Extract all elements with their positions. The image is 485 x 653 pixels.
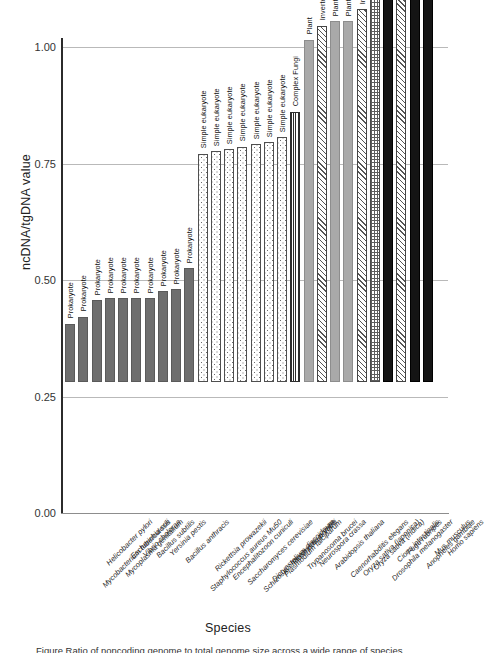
- bar-group-label: Prokaryote: [159, 250, 166, 286]
- bar-group-label: Simple eukaryote: [199, 91, 206, 149]
- bar-group-label: Prokaryote: [80, 275, 87, 311]
- bar[interactable]: Simple eukaryote: [277, 137, 287, 382]
- figure-caption: Figure Ratio of noncoding genome to tota…: [36, 645, 440, 653]
- bar[interactable]: Vertebrate: [423, 0, 433, 382]
- bar[interactable]: Prokaryote: [92, 300, 102, 382]
- bar[interactable]: Invertebrate: [317, 26, 327, 382]
- bar[interactable]: Urochordate: [370, 0, 380, 382]
- bar[interactable]: Prokaryote: [131, 298, 141, 382]
- bar[interactable]: Plant: [343, 21, 353, 382]
- bar[interactable]: Prokaryote: [118, 298, 128, 382]
- bar[interactable]: Simple eukaryote: [211, 151, 221, 382]
- bar[interactable]: Prokaryote: [105, 298, 115, 382]
- bar[interactable]: Vertebrate: [410, 0, 420, 382]
- x-axis-title: Species: [0, 621, 456, 635]
- bar-group-label: Prokaryote: [146, 257, 153, 293]
- plot-area: ProkaryoteProkaryoteProkaryoteProkaryote…: [0, 0, 456, 520]
- bar-group-label: Simple eukaryote: [252, 81, 259, 139]
- bar[interactable]: Simple eukaryote: [198, 154, 208, 382]
- bar-group-label: Prokaryote: [133, 257, 140, 293]
- bar-group-label: Simple eukaryote: [239, 84, 246, 142]
- bar-group-label: Simple eukaryote: [265, 79, 272, 137]
- bar-group-label: Invertebrate: [318, 0, 325, 21]
- bar[interactable]: Prokaryote: [65, 324, 75, 382]
- bar[interactable]: Prokaryote: [184, 268, 194, 382]
- bar-group-label: Prokaryote: [93, 259, 100, 295]
- bar-group-label: Simple eukaryote: [226, 86, 233, 144]
- bar[interactable]: Simple eukaryote: [264, 142, 274, 382]
- bar-group-label: Prokaryote: [67, 282, 74, 318]
- bar[interactable]: Prokaryote: [171, 289, 181, 382]
- bar[interactable]: Vertebrate: [383, 0, 393, 382]
- bar-group-label: Prokaryote: [106, 257, 113, 293]
- bar-group-label: Plant: [305, 17, 312, 34]
- bar-group-label: Simple eukaryote: [212, 88, 219, 146]
- bar[interactable]: Plant: [330, 21, 340, 382]
- bar-group-label: Simple eukaryote: [279, 74, 286, 132]
- bar-group-label: Plant: [332, 0, 339, 16]
- bar[interactable]: Prokaryote: [78, 317, 88, 382]
- bar[interactable]: Invertebrate: [396, 0, 406, 382]
- bar[interactable]: Complex Fungi: [290, 112, 300, 382]
- bar[interactable]: Prokaryote: [158, 291, 168, 382]
- bar[interactable]: Simple eukaryote: [224, 149, 234, 382]
- bar[interactable]: Plant: [304, 40, 314, 383]
- x-axis-tick-labels: Mycobacterium tuberculosisHelicobacter p…: [0, 514, 456, 624]
- bar[interactable]: Prokaryote: [145, 298, 155, 382]
- bar-group-label: Complex Fungi: [292, 56, 299, 106]
- bar[interactable]: Invertebrate: [357, 9, 367, 382]
- bar-group-label: Invertebrate: [358, 0, 365, 4]
- bar[interactable]: Simple eukaryote: [237, 147, 247, 382]
- bar-group-label: Prokaryote: [173, 248, 180, 284]
- bar-group-label: Prokaryote: [120, 257, 127, 293]
- bar[interactable]: Simple eukaryote: [251, 144, 261, 382]
- bar-group-label: Plant: [345, 0, 352, 16]
- bar-group-label: Prokaryote: [186, 227, 193, 263]
